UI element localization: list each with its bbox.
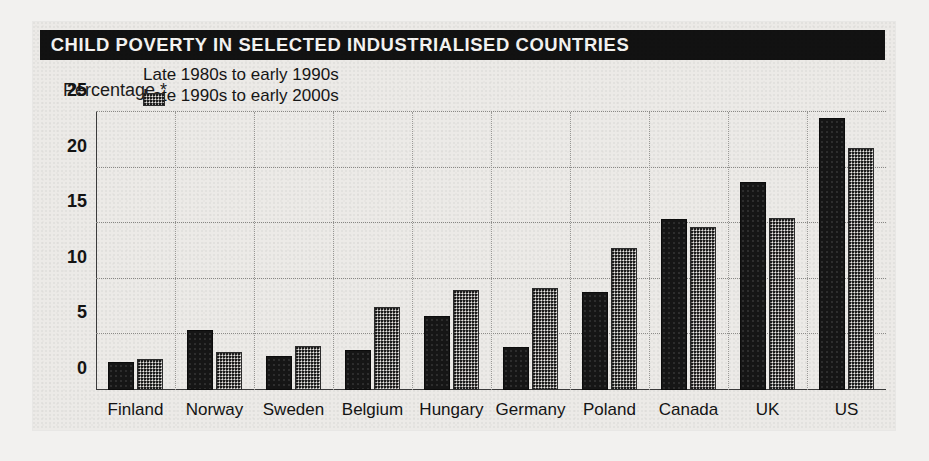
- vertical-gridline: [175, 112, 176, 390]
- bar: [453, 290, 479, 390]
- y-axis-tick-label: 25: [67, 80, 87, 101]
- vertical-gridline: [333, 112, 334, 390]
- bar-group-norway: [187, 112, 242, 390]
- x-axis-tick-label: US: [835, 400, 859, 420]
- bar: [582, 292, 608, 390]
- bar: [187, 330, 213, 390]
- x-axis-tick-label: Sweden: [263, 400, 324, 420]
- vertical-gridline: [728, 112, 729, 390]
- vertical-gridline: [570, 112, 571, 390]
- bar: [108, 362, 134, 390]
- bar: [769, 218, 795, 390]
- y-axis-tick-label: 5: [77, 302, 87, 323]
- vertical-gridline: [649, 112, 650, 390]
- bar-group-uk: [740, 112, 795, 390]
- bar: [295, 346, 321, 390]
- y-axis-line: [96, 112, 97, 390]
- x-axis-tick-label: Finland: [108, 400, 164, 420]
- bar: [216, 352, 242, 390]
- bar-group-hungary: [424, 112, 479, 390]
- vertical-gridline: [491, 112, 492, 390]
- chart-legend: Late 1980s to early 1990sLate 1990s to e…: [143, 64, 339, 106]
- x-axis-tick-label: Belgium: [342, 400, 403, 420]
- bar: [424, 316, 450, 391]
- bar-group-germany: [503, 112, 558, 390]
- chart-title-bar: CHILD POVERTY IN SELECTED INDUSTRIALISED…: [40, 30, 885, 60]
- vertical-gridline: [254, 112, 255, 390]
- chart-figure: CHILD POVERTY IN SELECTED INDUSTRIALISED…: [33, 22, 895, 430]
- x-axis-tick-label: Hungary: [419, 400, 483, 420]
- y-axis-tick-label: 0: [77, 358, 87, 379]
- bar: [345, 350, 371, 390]
- y-axis-tick-label: 10: [67, 247, 87, 268]
- legend-swatch-icon: [143, 93, 165, 106]
- legend-item: Late 1980s to early 1990s: [143, 64, 339, 85]
- bar-group-finland: [108, 112, 163, 390]
- x-axis-tick-label: Poland: [583, 400, 636, 420]
- bar-group-us: [819, 112, 874, 390]
- bar: [611, 248, 637, 390]
- bar-group-sweden: [266, 112, 321, 390]
- legend-label: Late 1990s to early 2000s: [143, 86, 339, 106]
- x-axis-tick-label: Canada: [659, 400, 719, 420]
- x-axis-tick-label: Germany: [496, 400, 566, 420]
- y-axis-tick-label: 15: [67, 191, 87, 212]
- legend-label: Late 1980s to early 1990s: [143, 65, 339, 85]
- bar: [374, 307, 400, 390]
- bar: [503, 347, 529, 390]
- legend-item: Late 1990s to early 2000s: [143, 85, 339, 106]
- vertical-gridline: [807, 112, 808, 390]
- bar: [266, 356, 292, 390]
- bar-group-belgium: [345, 112, 400, 390]
- bar: [137, 359, 163, 390]
- x-axis-tick-label: Norway: [186, 400, 244, 420]
- chart-title: CHILD POVERTY IN SELECTED INDUSTRIALISED…: [40, 34, 629, 56]
- y-axis-tick-label: 20: [67, 136, 87, 157]
- bar: [740, 182, 766, 390]
- bar: [690, 227, 716, 390]
- bar-group-poland: [582, 112, 637, 390]
- plot-area: 0510152025 FinlandNorwaySwedenBelgiumHun…: [96, 112, 886, 390]
- bar: [661, 219, 687, 390]
- bar-group-canada: [661, 112, 716, 390]
- vertical-gridline: [412, 112, 413, 390]
- bar: [532, 288, 558, 390]
- bar: [819, 118, 845, 390]
- x-axis-tick-label: UK: [756, 400, 780, 420]
- bar: [848, 148, 874, 390]
